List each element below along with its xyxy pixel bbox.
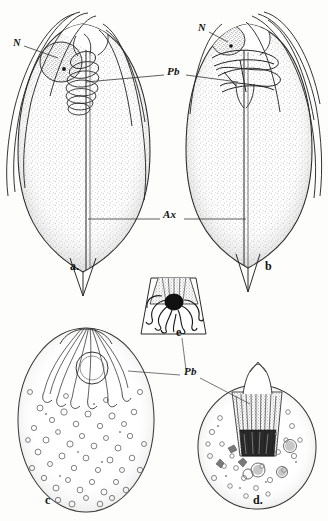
spore-illustration-svg <box>0 0 328 521</box>
panel-letter-c: c <box>45 494 50 506</box>
label-polar-body-top: Pb <box>167 66 180 77</box>
panel-e-section <box>141 252 206 334</box>
panel-letter-d: d. <box>253 494 263 506</box>
panel-c-sporoplasm <box>18 318 154 512</box>
label-nucleus-panel-a: N <box>13 38 21 49</box>
panel-a-spore <box>7 12 150 296</box>
figure-plate: N N Pb Ax Pb a. b e c d. <box>0 0 328 521</box>
panel-d-sporoplasm <box>198 362 316 509</box>
panel-letter-b: b <box>265 260 272 272</box>
panel-letter-a: a. <box>70 260 79 272</box>
panel-b-spore <box>186 12 322 292</box>
label-axial-filament: Ax <box>163 209 176 220</box>
panel-letter-e: e <box>176 326 181 338</box>
label-polar-body-bottom: Pb <box>184 366 197 377</box>
label-nucleus-panel-b: N <box>198 23 206 34</box>
